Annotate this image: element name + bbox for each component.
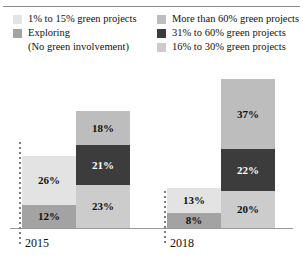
bar-segment-label-2018-16-to-30-green: 20% — [237, 204, 259, 215]
bar-segment-2015-16-to-30-green: 23% — [76, 185, 130, 228]
stacked-bar-chart-figure: 1% to 15% green projects Exploring (No g… — [0, 0, 303, 259]
bar-segment-2018-exploring: 8% — [167, 213, 221, 228]
bar-segment-label-2018-exploring: 8% — [186, 215, 203, 226]
legend-item-1-to-15-green: 1% to 15% green projects — [13, 13, 155, 25]
bar-segment-label-2015-1-to-15-green: 26% — [38, 175, 60, 186]
legend-swatch-more-than-60-green-icon — [157, 15, 166, 24]
bar-group-2018: 13% 8% 37% 22% 20% 2018 — [155, 66, 295, 259]
x-axis-label-2018: 2018 — [170, 236, 194, 251]
bar-segment-label-2015-more-than-60-green: 18% — [92, 123, 114, 134]
bar-segment-label-2015-16-to-30-green: 23% — [92, 201, 114, 212]
legend-swatch-16-to-30-green-icon — [157, 43, 166, 52]
bar-2015-no-or-low-green: 26% 12% — [22, 156, 76, 228]
legend-swatch-1-to-15-green-icon — [13, 15, 22, 24]
plot-area: 26% 12% 18% 21% 23% 2015 — [0, 66, 303, 259]
legend-column-left: 1% to 15% green projects Exploring (No g… — [13, 13, 155, 53]
legend-column-right: More than 60% green projects 31% to 60% … — [157, 13, 303, 55]
legend-item-31-to-60-green: 31% to 60% green projects — [157, 27, 303, 39]
legend-item-16-to-30-green: 16% to 30% green projects — [157, 41, 303, 53]
legend-item-exploring: Exploring — [13, 27, 155, 39]
bar-segment-2015-1-to-15-green: 26% — [22, 156, 76, 205]
group-axis-dotted-line-2018 — [164, 191, 166, 245]
bar-segment-label-2015-exploring: 12% — [38, 211, 60, 222]
bar-segment-2018-16-to-30-green: 20% — [221, 191, 275, 228]
bar-segment-2018-more-than-60-green: 37% — [221, 79, 275, 149]
bar-segment-2015-exploring: 12% — [22, 205, 76, 228]
bar-segment-2015-31-to-60-green: 21% — [76, 145, 130, 185]
bar-2018-no-or-low-green: 13% 8% — [167, 188, 221, 228]
legend-label-more-than-60-green: More than 60% green projects — [172, 13, 299, 25]
chart-legend: 1% to 15% green projects Exploring (No g… — [0, 13, 303, 65]
bar-segment-label-2015-31-to-60-green: 21% — [92, 160, 114, 171]
bar-segment-label-2018-31-to-60-green: 22% — [237, 165, 259, 176]
bar-segment-2015-more-than-60-green: 18% — [76, 111, 130, 145]
bar-segment-label-2018-1-to-15-green: 13% — [183, 195, 205, 206]
bar-2015-green-projects: 18% 21% 23% — [76, 111, 130, 228]
legend-label-16-to-30-green: 16% to 30% green projects — [172, 41, 286, 53]
bar-segment-2018-1-to-15-green: 13% — [167, 188, 221, 213]
legend-swatch-exploring-icon — [13, 29, 22, 38]
legend-label-1-to-15-green: 1% to 15% green projects — [28, 13, 136, 25]
top-divider-rule — [3, 6, 300, 7]
legend-item-more-than-60-green: More than 60% green projects — [157, 13, 303, 25]
bar-group-2015: 26% 12% 18% 21% 23% 2015 — [10, 66, 145, 259]
legend-swatch-31-to-60-green-icon — [157, 29, 166, 38]
legend-label-exploring: Exploring — [28, 27, 70, 39]
group-axis-dotted-line-2015 — [19, 142, 21, 245]
x-axis-label-2015: 2015 — [25, 236, 49, 251]
bar-segment-2018-31-to-60-green: 22% — [221, 149, 275, 191]
bar-segment-label-2018-more-than-60-green: 37% — [237, 109, 259, 120]
bar-2018-green-projects: 37% 22% 20% — [221, 79, 275, 228]
legend-label-31-to-60-green: 31% to 60% green projects — [172, 27, 286, 39]
legend-sublabel-exploring: (No green involvement) — [28, 41, 155, 53]
